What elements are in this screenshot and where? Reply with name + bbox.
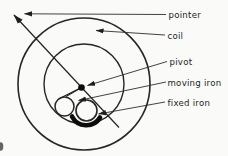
fixed-iron-circle	[76, 100, 97, 121]
moving-iron-circle	[55, 97, 74, 116]
corner-smudge	[0, 142, 3, 150]
pointer-leader-line	[25, 14, 167, 15]
pivot-leader-line	[88, 62, 168, 86]
label-coil: coil	[168, 31, 184, 41]
coil-leader-line	[96, 31, 165, 36]
fixed-iron-leader-line	[99, 102, 166, 114]
moving-iron-instrument-diagram: pointer coil pivot moving iron fixed iro…	[0, 0, 228, 156]
label-pointer: pointer	[169, 10, 202, 20]
pivot-dot	[78, 84, 85, 91]
label-fixed-iron: fixed iron	[168, 98, 211, 108]
pointer-needle	[14, 15, 119, 128]
coil-annulus	[18, 18, 150, 150]
label-pivot: pivot	[170, 57, 193, 67]
diagram-canvas: pointer coil pivot moving iron fixed iro…	[0, 0, 228, 156]
label-moving-iron: moving iron	[168, 78, 222, 88]
